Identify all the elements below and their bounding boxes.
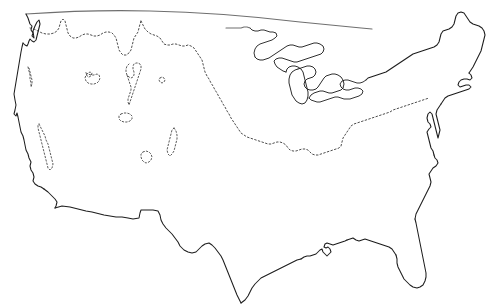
map-background [0,0,496,308]
us-outline-map [0,0,496,308]
map-canvas [0,0,496,308]
